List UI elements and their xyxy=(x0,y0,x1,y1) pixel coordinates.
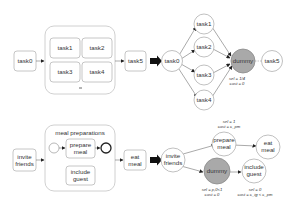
graph-node-eat-label-1: eat xyxy=(264,139,273,146)
graph-node-include-label-2: guest xyxy=(246,170,261,177)
dummy-cost-annotation: cost = 0 xyxy=(205,192,220,197)
edge xyxy=(178,27,196,57)
task2-label: task2 xyxy=(90,44,105,51)
eat-meal-label-2: meal xyxy=(128,160,141,167)
transform-arrow-icon xyxy=(150,56,162,67)
end-event-icon xyxy=(101,143,111,153)
invite-friends-label-1: invite xyxy=(17,153,32,160)
task1-label: task1 xyxy=(58,44,73,51)
invite-friends-label-2: friends xyxy=(15,160,34,167)
prepare-meal-label-1: prepare xyxy=(70,141,92,148)
edge xyxy=(212,27,231,56)
include-cost-annotation: cost = c_ig < c_pm xyxy=(237,192,273,197)
graph-node-prepare-label-2: meal xyxy=(217,143,230,150)
task4-label: task4 xyxy=(90,68,105,75)
graph-node-task1-label: task1 xyxy=(197,20,212,27)
graph-node-include-label-1: include xyxy=(244,163,264,170)
prepare-cost-annotation: cost = c_pm xyxy=(218,124,241,129)
edge xyxy=(181,166,203,172)
task3-label: task3 xyxy=(58,68,73,75)
diagram-canvas: task0 task1 task2 task3 task4 task5 task… xyxy=(0,0,302,206)
start-event-icon xyxy=(49,143,59,153)
prepare-meal-label-2: meal xyxy=(74,148,87,155)
graph-node-dummy-label: dummy xyxy=(207,167,228,174)
graph-node-task5-label: task5 xyxy=(265,57,280,64)
edge xyxy=(177,66,197,97)
task5-label: task5 xyxy=(128,57,143,64)
subprocess-title: meal preparations xyxy=(55,129,105,136)
graph-node-task0-label: task0 xyxy=(165,57,180,64)
graph-node-eat-label-2: meal xyxy=(261,146,274,153)
eat-meal-label-1: eat xyxy=(131,153,140,160)
top-bpmn: task0 task1 task2 task3 task4 task5 xyxy=(14,26,146,94)
graph-node-task2-label: task2 xyxy=(197,43,212,50)
graph-node-invite-label-1: invite xyxy=(166,152,181,159)
graph-node-prepare-label-1: prepare xyxy=(213,136,235,143)
top-graph: task0 task1 task2 task3 task4 dummy task… xyxy=(162,14,283,110)
parallel-container[interactable] xyxy=(45,26,115,94)
dummy-cost-annotation: cost = 0 xyxy=(230,81,245,86)
bottom-bpmn: invite friends meal preparations prepare… xyxy=(13,125,146,191)
bottom-graph: invite friends prepare meal dummy includ… xyxy=(161,119,280,197)
edge xyxy=(181,50,195,59)
graph-node-task3-label: task3 xyxy=(197,71,212,78)
graph-node-task4-label: task4 xyxy=(197,96,212,103)
edge xyxy=(183,145,215,154)
include-guest-label-1: include xyxy=(71,168,91,175)
include-guest-label-2: guest xyxy=(73,175,88,182)
edge xyxy=(181,64,195,72)
graph-node-dummy-label: dummy xyxy=(233,57,254,64)
edge xyxy=(213,64,230,73)
edge xyxy=(233,145,256,146)
graph-node-invite-label-2: friends xyxy=(164,159,183,166)
transform-arrow-icon xyxy=(150,155,162,166)
task0-label: task0 xyxy=(18,57,33,64)
